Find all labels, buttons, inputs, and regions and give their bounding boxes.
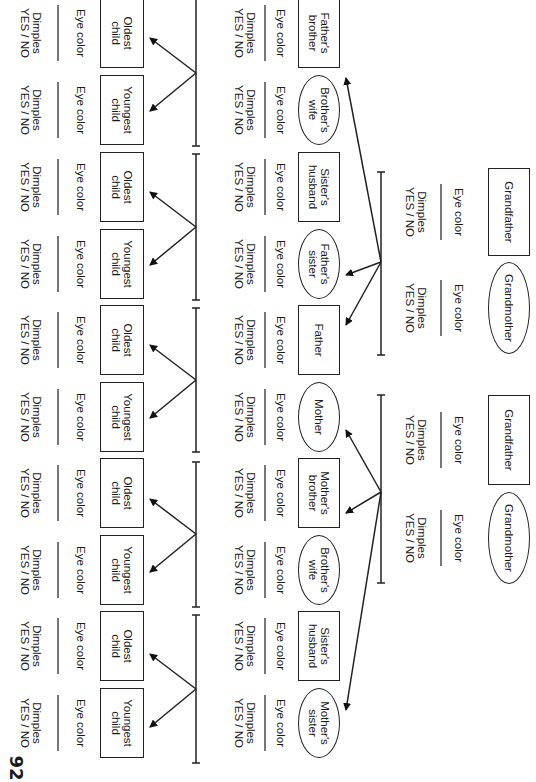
oldest-child-box: Oldestchild <box>100 305 144 375</box>
dimples-label: Dimples <box>245 0 257 68</box>
dimples-yes-no-choice[interactable]: DimplesYES / NO <box>231 382 257 452</box>
eye-color-answer-line[interactable] <box>264 5 266 61</box>
yes-no-options[interactable]: YES / NO <box>233 305 245 375</box>
yes-no-options[interactable]: YES / NO <box>233 152 245 222</box>
youngest-child-box: Youngestchild <box>100 229 144 299</box>
node-label: Youngestchild <box>110 699 134 747</box>
dimples-yes-no-choice[interactable]: DimplesYES / NO <box>402 273 428 343</box>
yes-no-options[interactable]: YES / NO <box>19 152 31 222</box>
node-label: Youngestchild <box>110 546 134 594</box>
dimples-yes-no-choice[interactable]: DimplesYES / NO <box>17 152 43 222</box>
dimples-yes-no-choice[interactable]: DimplesYES / NO <box>231 229 257 299</box>
dimples-label: Dimples <box>245 458 257 528</box>
node-label: Grandmother <box>503 504 515 572</box>
dimples-label: Dimples <box>245 611 257 681</box>
dimples-yes-no-choice[interactable]: DimplesYES / NO <box>231 611 257 681</box>
dimples-yes-no-choice[interactable]: DimplesYES / NO <box>17 0 43 68</box>
eye-color-answer-line[interactable] <box>264 82 266 138</box>
eye-color-answer-line[interactable] <box>57 159 59 215</box>
yes-no-options[interactable]: YES / NO <box>404 503 416 573</box>
dimples-yes-no-choice[interactable]: DimplesYES / NO <box>231 0 257 68</box>
eye-color-label: Eye color <box>273 535 287 605</box>
eye-color-answer-line[interactable] <box>57 236 59 292</box>
dimples-yes-no-choice[interactable]: DimplesYES / NO <box>17 535 43 605</box>
dimples-label: Dimples <box>245 382 257 452</box>
yes-no-options[interactable]: YES / NO <box>19 458 31 528</box>
mothers-sisters-husband-box: Sister'shusband <box>298 611 340 681</box>
eye-color-answer-line[interactable] <box>57 312 59 368</box>
dimples-yes-no-choice[interactable]: DimplesYES / NO <box>402 177 428 247</box>
yes-no-options[interactable]: YES / NO <box>19 535 31 605</box>
yes-no-options[interactable]: YES / NO <box>404 177 416 247</box>
label-line: brother <box>307 12 319 53</box>
node-label: Oldestchild <box>110 476 134 509</box>
dimples-yes-no-choice[interactable]: DimplesYES / NO <box>17 382 43 452</box>
dimples-yes-no-choice[interactable]: DimplesYES / NO <box>17 688 43 758</box>
fathers-brothers-wife-oval: Brother'swife <box>298 75 340 145</box>
yes-no-options[interactable]: YES / NO <box>19 0 31 68</box>
eye-color-answer-line[interactable] <box>57 542 59 598</box>
eye-color-answer-line[interactable] <box>264 542 266 598</box>
yes-no-options[interactable]: YES / NO <box>404 405 416 475</box>
dimples-label: Dimples <box>31 382 43 452</box>
eye-color-answer-line[interactable] <box>57 618 59 674</box>
dimples-yes-no-choice[interactable]: DimplesYES / NO <box>17 229 43 299</box>
yes-no-options[interactable]: YES / NO <box>233 0 245 68</box>
eye-color-answer-line[interactable] <box>264 159 266 215</box>
dimples-yes-no-choice[interactable]: DimplesYES / NO <box>17 611 43 681</box>
yes-no-options[interactable]: YES / NO <box>233 611 245 681</box>
yes-no-options[interactable]: YES / NO <box>19 688 31 758</box>
eye-color-answer-line[interactable] <box>264 389 266 445</box>
eye-color-answer-line[interactable] <box>264 695 266 751</box>
eye-color-answer-line[interactable] <box>57 389 59 445</box>
eye-color-label: Eye color <box>273 458 287 528</box>
dimples-yes-no-choice[interactable]: DimplesYES / NO <box>231 458 257 528</box>
dimples-label: Dimples <box>245 688 257 758</box>
dimples-yes-no-choice[interactable]: DimplesYES / NO <box>231 688 257 758</box>
yes-no-options[interactable]: YES / NO <box>233 382 245 452</box>
eye-color-answer-line[interactable] <box>57 465 59 521</box>
dimples-yes-no-choice[interactable]: DimplesYES / NO <box>17 75 43 145</box>
yes-no-options[interactable]: YES / NO <box>233 458 245 528</box>
dimples-yes-no-choice[interactable]: DimplesYES / NO <box>402 405 428 475</box>
paternal-grandfather-box: Grandfather <box>488 168 530 256</box>
label-line: sister <box>307 243 319 284</box>
label-line: Youngest <box>122 546 134 594</box>
eye-color-answer-line[interactable] <box>440 412 442 468</box>
yes-no-options[interactable]: YES / NO <box>233 75 245 145</box>
yes-no-options[interactable]: YES / NO <box>19 305 31 375</box>
yes-no-options[interactable]: YES / NO <box>19 229 31 299</box>
dimples-label: Dimples <box>31 688 43 758</box>
yes-no-options[interactable]: YES / NO <box>404 273 416 343</box>
dimples-yes-no-choice[interactable]: DimplesYES / NO <box>402 503 428 573</box>
label-line: Mother's <box>319 471 331 515</box>
eye-color-answer-line[interactable] <box>57 82 59 138</box>
yes-no-options[interactable]: YES / NO <box>233 688 245 758</box>
yes-no-options[interactable]: YES / NO <box>233 229 245 299</box>
eye-color-answer-line[interactable] <box>264 236 266 292</box>
eye-color-answer-line[interactable] <box>264 465 266 521</box>
dimples-label: Dimples <box>31 75 43 145</box>
dimples-yes-no-choice[interactable]: DimplesYES / NO <box>231 535 257 605</box>
dimples-yes-no-choice[interactable]: DimplesYES / NO <box>17 458 43 528</box>
dimples-yes-no-choice[interactable]: DimplesYES / NO <box>231 152 257 222</box>
dimples-yes-no-choice[interactable]: DimplesYES / NO <box>17 305 43 375</box>
label-line: Oldest <box>122 629 134 662</box>
dimples-yes-no-choice[interactable]: DimplesYES / NO <box>231 305 257 375</box>
eye-color-answer-line[interactable] <box>57 5 59 61</box>
mothers-sister-oval: Mother'ssister <box>298 688 340 758</box>
yes-no-options[interactable]: YES / NO <box>19 75 31 145</box>
eye-color-answer-line[interactable] <box>57 695 59 751</box>
eye-color-answer-line[interactable] <box>264 618 266 674</box>
node-label: Mother'sbrother <box>307 471 331 515</box>
yes-no-options[interactable]: YES / NO <box>19 382 31 452</box>
eye-color-answer-line[interactable] <box>440 280 442 336</box>
eye-color-answer-line[interactable] <box>440 510 442 566</box>
eye-color-answer-line[interactable] <box>440 184 442 240</box>
oldest-child-box: Oldestchild <box>100 611 144 681</box>
label-line: Mother <box>313 399 325 435</box>
dimples-yes-no-choice[interactable]: DimplesYES / NO <box>231 75 257 145</box>
yes-no-options[interactable]: YES / NO <box>19 611 31 681</box>
yes-no-options[interactable]: YES / NO <box>233 535 245 605</box>
eye-color-answer-line[interactable] <box>264 312 266 368</box>
